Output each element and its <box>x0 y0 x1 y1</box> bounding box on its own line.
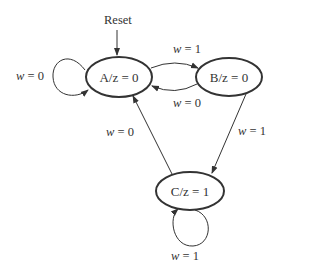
state-a-label: A/z = 0 <box>99 71 138 84</box>
transition-b-a <box>152 84 197 91</box>
transition-c-a <box>133 96 172 174</box>
transition-a-b <box>151 63 198 68</box>
transition-a-a-label: w = 0 <box>16 70 44 83</box>
transition-b-c-label: w = 1 <box>238 125 266 138</box>
transition-c-a-label: w = 0 <box>106 126 134 139</box>
transition-a-b-label: w = 1 <box>173 43 201 56</box>
state-b-label: B/z = 0 <box>210 71 248 84</box>
transition-a-a <box>53 59 88 95</box>
transition-c-c-label: w = 1 <box>171 250 199 263</box>
transition-c-c <box>173 209 208 246</box>
state-c-label: C/z = 1 <box>171 185 209 198</box>
transition-b-a-label: w = 0 <box>173 97 201 110</box>
reset-label: Reset <box>104 14 132 27</box>
